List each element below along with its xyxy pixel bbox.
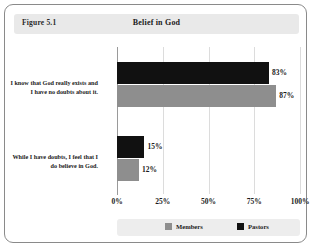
bar-value-label-members-0: 87% (279, 85, 294, 107)
bar-pastors-0 (117, 62, 269, 84)
tick-label-25: 25% (155, 197, 170, 206)
legend-swatch-pastors (237, 223, 244, 230)
gridline-100 (300, 47, 301, 194)
figure-header-band: Figure 5.1 Belief in God (14, 14, 299, 34)
chart-legend: MembersPastors (117, 219, 300, 236)
chart-title: Belief in God (14, 18, 299, 27)
legend-entry-members[interactable]: Members (165, 223, 203, 230)
bar-pastors-1 (117, 136, 144, 158)
legend-label-members: Members (176, 223, 203, 230)
legend-label-pastors: Pastors (248, 223, 269, 230)
tick-label-50: 50% (201, 197, 216, 206)
tick-label-0: 0% (111, 197, 122, 206)
bar-value-label-pastors-1: 15% (147, 136, 162, 158)
legend-swatch-members (165, 223, 172, 230)
bar-value-label-pastors-0: 83% (272, 62, 287, 84)
bar-members-0 (117, 85, 276, 107)
tick-label-100: 100% (291, 197, 310, 206)
legend-entry-pastors[interactable]: Pastors (237, 223, 269, 230)
category-label-1: While I have doubts, I feel that I do be… (10, 153, 98, 170)
category-label-0: I know that God really exists and I have… (10, 79, 98, 96)
figure-frame: Figure 5.1 Belief in God 83%87%15%12% I … (4, 4, 307, 243)
bar-members-1 (117, 159, 139, 181)
tick-label-75: 75% (247, 197, 262, 206)
bar-value-label-members-1: 12% (142, 159, 157, 181)
